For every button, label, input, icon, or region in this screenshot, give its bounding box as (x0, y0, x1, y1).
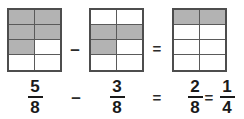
grid-cell (174, 25, 200, 40)
grid-cell (91, 55, 117, 70)
grid-cell (174, 55, 200, 70)
subtrahend-numerator: 3 (104, 77, 130, 96)
grid-cell (9, 10, 35, 25)
subtrahend-fraction: 3 8 (104, 77, 130, 117)
equals-operator-bottom: = (147, 88, 167, 107)
grid-cell (117, 25, 143, 40)
difference-area-model (172, 8, 227, 72)
grid-cell (35, 25, 61, 40)
equals-operator-top: = (147, 41, 167, 56)
subtrahend-area-model (89, 8, 144, 72)
grid-cell (35, 55, 61, 70)
minuend-fraction: 5 8 (22, 77, 48, 117)
minuend-area-model (7, 8, 62, 72)
grid-cell (200, 55, 226, 70)
grid-cell (91, 10, 117, 25)
minus-operator-bottom: – (66, 88, 86, 107)
grid-cell (9, 25, 35, 40)
grid-cell (200, 10, 226, 25)
grid-cell (200, 40, 226, 55)
subtrahend-denominator: 8 (104, 98, 130, 117)
minus-operator-top: – (65, 41, 85, 58)
simplified-denominator: 4 (214, 98, 240, 117)
area-models-row: – = (0, 8, 244, 74)
equation-row: 5 8 – 3 8 = 2 8 = 1 4 (0, 77, 244, 119)
grid-cell (9, 55, 35, 70)
minuend-numerator: 5 (22, 77, 48, 96)
grid-cell (200, 25, 226, 40)
simplified-numerator: 1 (214, 77, 240, 96)
grid-cell (117, 40, 143, 55)
simplified-fraction: 1 4 (214, 77, 240, 117)
grid-cell (91, 25, 117, 40)
grid-cell (117, 10, 143, 25)
grid-cell (9, 40, 35, 55)
grid-cell (35, 10, 61, 25)
grid-cell (117, 55, 143, 70)
grid-cell (174, 10, 200, 25)
grid-cell (91, 40, 117, 55)
fraction-figure: – = 5 8 (0, 0, 244, 119)
grid-cell (35, 40, 61, 55)
minuend-denominator: 8 (22, 98, 48, 117)
grid-cell (174, 40, 200, 55)
